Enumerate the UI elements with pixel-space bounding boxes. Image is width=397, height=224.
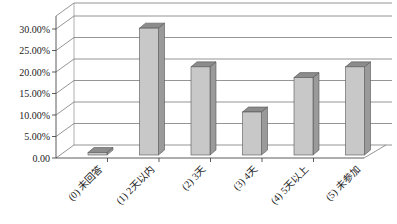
bar: [140, 23, 165, 155]
bar: [88, 148, 113, 156]
bar: [191, 62, 216, 155]
y-tick-label: 15.00%: [19, 88, 50, 99]
x-category-label: (0) 未回答: [65, 163, 105, 203]
x-category-label: (3) 4天: [231, 164, 260, 193]
chart-canvas: 0.005.00%10.00%15.00%20.00%25.00%30.00% …: [0, 0, 397, 224]
x-category-label: (2) 3天: [180, 164, 209, 193]
y-tick-label: 0.00: [33, 153, 51, 164]
bar-chart: 0.005.00%10.00%15.00%20.00%25.00%30.00% …: [0, 0, 397, 224]
chart-gridlines: [56, 3, 392, 162]
y-tick-label: 30.00%: [19, 24, 50, 35]
bar: [294, 73, 319, 155]
y-tick-label: 25.00%: [19, 45, 50, 56]
x-category-label: (1) 2天以内: [113, 163, 157, 207]
bar: [346, 62, 371, 155]
x-axis-labels: (0) 未回答(1) 2天以内(2) 3天(3) 4天(4) 5天以上(5) 未…: [65, 163, 363, 207]
x-category-label: (5) 未参加: [323, 163, 363, 203]
x-category-label: (4) 5天以上: [268, 164, 311, 207]
y-axis-ticks: 0.005.00%10.00%15.00%20.00%25.00%30.00%: [19, 24, 56, 164]
y-tick-label: 20.00%: [19, 67, 50, 78]
y-tick-label: 5.00%: [24, 131, 50, 142]
y-tick-label: 10.00%: [19, 110, 50, 121]
chart-bars: [88, 23, 371, 155]
bar: [243, 107, 268, 155]
